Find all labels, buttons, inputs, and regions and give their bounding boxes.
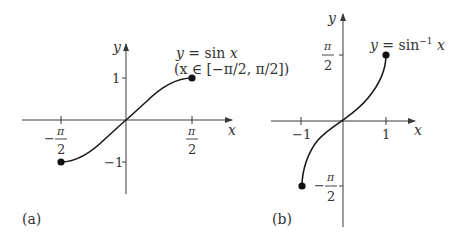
svg-text:−: −: [314, 178, 325, 193]
y-axis-label: y: [112, 39, 122, 55]
svg-text:π: π: [187, 125, 196, 138]
svg-text:−: −: [44, 131, 55, 146]
x-tick-label-1: 1: [382, 127, 390, 142]
y-tick-label-1: 1: [112, 71, 120, 86]
svg-text:2: 2: [324, 58, 332, 73]
domain-annotation: (x ∈ [−π/2, π/2]): [174, 61, 289, 77]
panel-a: y x 1 −1 − π 2 π 2 y = sin x (x ∈ [−π/2,…: [22, 39, 289, 227]
x-axis-label: x: [414, 122, 422, 138]
svg-text:π: π: [323, 40, 332, 53]
x-tick-label-neg-pi-half: − π 2: [44, 125, 67, 157]
y-tick-label-neg-pi-half: − π 2: [314, 171, 337, 204]
x-axis-label: x: [228, 122, 236, 138]
y-axis-label: y: [327, 10, 337, 26]
svg-text:2: 2: [188, 142, 196, 157]
caption-a: (a): [22, 211, 41, 227]
caption-b: (b): [272, 211, 292, 227]
x-tick-label-neg1: −1: [292, 127, 311, 142]
x-tick-label-pi-half: π 2: [186, 125, 198, 157]
svg-text:2: 2: [327, 189, 335, 204]
curve-equation-label: y = sin x: [175, 45, 238, 61]
svg-text:π: π: [326, 171, 335, 184]
svg-text:2: 2: [57, 142, 65, 157]
svg-text:π: π: [56, 125, 65, 138]
y-tick-label-neg1: −1: [104, 155, 123, 170]
endpoint-dot-bottom: [298, 182, 305, 189]
panel-b: y x −1 1 π 2 − π 2 y = sin−1 x (b): [271, 10, 445, 227]
endpoint-dot-left: [57, 158, 64, 165]
curve-equation-label: y = sin−1 x: [369, 36, 445, 53]
y-tick-label-pi-half: π 2: [322, 40, 334, 73]
inverse-sine-diagram: y x 1 −1 − π 2 π 2 y = sin x (x ∈ [−π/2,…: [0, 0, 460, 236]
